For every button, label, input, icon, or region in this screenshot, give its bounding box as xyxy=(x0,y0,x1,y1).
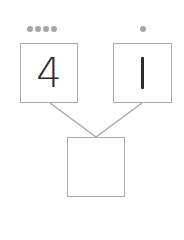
dot-icon xyxy=(51,26,57,32)
left-part-box: 4 xyxy=(20,43,78,103)
dot-icon xyxy=(35,26,41,32)
whole-box[interactable] xyxy=(67,137,125,197)
right-dots xyxy=(140,26,146,32)
right-part-value xyxy=(141,57,144,89)
left-part-value: 4 xyxy=(36,53,61,93)
dot-icon xyxy=(43,26,49,32)
right-part-box xyxy=(113,43,172,103)
dot-icon xyxy=(140,26,146,32)
dot-icon xyxy=(27,26,33,32)
left-dots xyxy=(27,26,57,32)
